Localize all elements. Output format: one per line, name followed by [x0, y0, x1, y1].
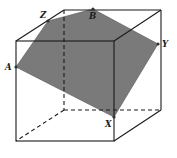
- point-y-marker: [156, 42, 159, 45]
- point-a-marker: [14, 65, 17, 68]
- point-x-marker: [112, 115, 115, 118]
- point-a-label: A: [4, 62, 12, 72]
- point-z-label: Z: [39, 10, 47, 20]
- cross-section-polygon: [16, 9, 158, 117]
- point-y-label: Y: [162, 39, 169, 49]
- hidden-edge-bottom-left-depth: [16, 110, 64, 141]
- point-x-label: X: [104, 119, 112, 129]
- diagram-canvas: AZBYX: [0, 0, 177, 158]
- point-b-label: B: [88, 11, 96, 21]
- cube-diagram: AZBYX: [0, 0, 177, 158]
- point-z-marker: [46, 19, 49, 22]
- edge-bottom-right-depth: [114, 110, 161, 141]
